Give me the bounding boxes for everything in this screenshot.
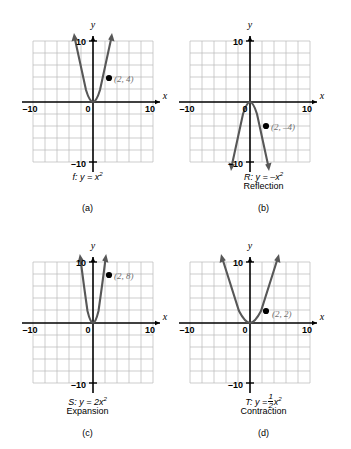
equation-body-a: y = x: [80, 172, 99, 182]
point-marker-c: [106, 272, 112, 278]
equation-prefix-a: f:: [72, 172, 77, 182]
x-tick-right-a: 10: [145, 104, 155, 114]
point-marker-b: [263, 123, 269, 129]
transformation-label-d: Contraction: [176, 406, 351, 417]
equation-caption-a: f: y = x2: [0, 168, 175, 183]
parabola-transformations-figure: y x 10 –10 –10 10 0 (2, 4) f: y = x2 (a): [0, 0, 351, 449]
plot-d: y x 10 –10 –10 10 0 (2, 2): [176, 225, 351, 405]
origin-label-c: 0: [85, 325, 90, 335]
transformation-label-b: Reflection: [176, 181, 351, 192]
y-axis-label-d: y: [247, 240, 253, 251]
point-label-b: (2, –4): [271, 122, 295, 132]
point-marker-d: [263, 308, 269, 314]
equation-exponent-a: 2: [99, 170, 102, 177]
x-axis-label-a: x: [162, 90, 168, 101]
graph-svg-d: y x 10 –10 –10 10 0 (2, 2): [176, 225, 351, 405]
equation-exponent-c: 2: [103, 395, 106, 402]
x-axis-label-c: x: [162, 311, 168, 322]
x-tick-right-c: 10: [145, 325, 155, 335]
panel-letter-b: (b): [176, 203, 351, 213]
y-axis-label-c: y: [90, 240, 96, 251]
fraction-numerator-d: 1: [268, 393, 272, 401]
x-tick-right-b: 10: [302, 104, 312, 114]
x-axis-label-b: x: [319, 90, 325, 101]
y-tick-top-a: 10: [76, 37, 86, 47]
point-label-a: (2, 4): [114, 74, 134, 84]
graph-svg-a: y x 10 –10 –10 10 0 (2, 4): [0, 0, 175, 180]
panel-letter-a: (a): [0, 203, 175, 213]
plot-a: y x 10 –10 –10 10 0 (2, 4): [0, 0, 175, 180]
plot-c: y x 10 –10 –10 10 0 (2, 8): [0, 225, 175, 405]
y-tick-top-d: 10: [233, 258, 243, 268]
axes-a: [22, 36, 160, 172]
plot-b: y x 10 –10 –10 10 0 (2, –4): [176, 0, 351, 180]
panel-d: y x 10 –10 –10 10 0 (2, 2) T: y =12x2 Co…: [176, 225, 351, 449]
panel-letter-c: (c): [0, 428, 175, 438]
y-axis-label-a: y: [90, 19, 96, 30]
y-tick-bottom-c: –10: [71, 380, 86, 390]
point-label-c: (2, 8): [114, 271, 134, 281]
equation-exponent-b: 2: [280, 170, 283, 177]
origin-label-d: 0: [242, 325, 247, 335]
x-tick-left-c: –10: [22, 325, 37, 335]
x-axis-label-d: x: [319, 311, 325, 322]
y-tick-top-b: 10: [233, 37, 243, 47]
y-tick-bottom-d: –10: [228, 380, 243, 390]
transformation-label-c: Expansion: [0, 406, 175, 417]
graph-svg-c: y x 10 –10 –10 10 0 (2, 8): [0, 225, 175, 405]
x-tick-left-a: –10: [22, 104, 37, 114]
x-tick-left-b: –10: [179, 104, 194, 114]
panel-b: y x 10 –10 –10 10 0 (2, –4) R: y = –x2 R…: [176, 0, 351, 224]
point-label-d: (2, 2): [272, 309, 292, 319]
axes-c: [22, 257, 160, 393]
origin-label-a: 0: [85, 104, 90, 114]
panel-a: y x 10 –10 –10 10 0 (2, 4) f: y = x2 (a): [0, 0, 175, 224]
origin-label-b: 0: [242, 104, 247, 114]
point-marker-a: [106, 75, 112, 81]
y-axis-label-b: y: [247, 19, 253, 30]
axes-d: [179, 257, 317, 393]
equation-exponent-d: 2: [278, 395, 281, 402]
panel-c: y x 10 –10 –10 10 0 (2, 8) S: y = 2x2 Ex…: [0, 225, 175, 449]
graph-svg-b: y x 10 –10 –10 10 0 (2, –4): [176, 0, 351, 180]
x-tick-left-d: –10: [179, 325, 194, 335]
y-tick-top-c: 10: [76, 258, 86, 268]
panel-letter-d: (d): [176, 428, 351, 438]
x-tick-right-d: 10: [302, 325, 312, 335]
